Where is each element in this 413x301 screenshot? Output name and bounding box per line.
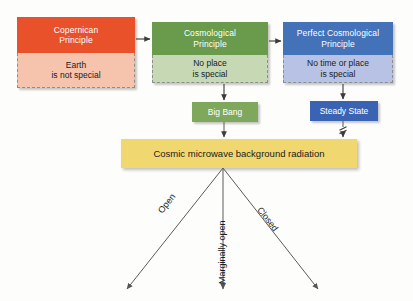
outcome-label-marginally-open: Marginally open [217, 220, 227, 284]
diagram-canvas: Copernican Principle Earth is not specia… [0, 0, 413, 301]
principle-box-perfect-cosmological: Perfect Cosmological Principle No time o… [283, 22, 393, 83]
outcome-label-open-text: Open [156, 192, 177, 216]
principle-header-line2: Principle [59, 35, 93, 45]
principle-body-line1: No place [193, 58, 227, 68]
principle-body-perfect-cosmological: No time or place is special [283, 55, 393, 83]
principle-header-line1: Copernican [54, 25, 98, 35]
evidence-label-cmb: Cosmic microwave background radiation [153, 148, 324, 159]
model-box-steady-state: Steady State [310, 101, 378, 121]
outcome-label-closed-text: Closed [255, 205, 280, 233]
principle-header-cosmological: Cosmological Principle [152, 22, 268, 55]
principle-header-perfect-cosmological: Perfect Cosmological Principle [283, 22, 393, 55]
principle-body-line1: No time or place [307, 58, 369, 68]
principle-header-line2: Principle [321, 39, 355, 49]
principle-header-copernican: Copernican Principle [17, 17, 135, 53]
principle-box-copernican: Copernican Principle Earth is not specia… [17, 17, 135, 88]
principle-header-line1: Cosmological [184, 28, 236, 38]
model-box-big-bang: Big Bang [192, 102, 258, 122]
outcome-label-closed: Closed [255, 205, 280, 233]
model-label-steady-state: Steady State [320, 106, 369, 116]
principle-body-line2: is special [321, 69, 356, 79]
arrow-cmb-to-open [127, 168, 223, 289]
model-label-big-bang: Big Bang [208, 107, 243, 117]
principle-body-line2: is special [193, 69, 228, 79]
break-mark-icon [340, 127, 347, 134]
principle-body-copernican: Earth is not special [17, 53, 135, 88]
outcome-label-marginally-open-text: Marginally open [217, 220, 227, 284]
principle-box-cosmological: Cosmological Principle No place is speci… [152, 22, 268, 83]
outcome-label-open: Open [156, 192, 177, 216]
principle-header-line2: Principle [193, 39, 227, 49]
principle-body-cosmological: No place is special [152, 55, 268, 83]
principle-header-line1: Perfect Cosmological [297, 28, 379, 38]
evidence-box-cmb: Cosmic microwave background radiation [121, 139, 357, 168]
principle-body-line2: is not special [51, 70, 100, 80]
principle-body-line1: Earth [66, 60, 86, 70]
